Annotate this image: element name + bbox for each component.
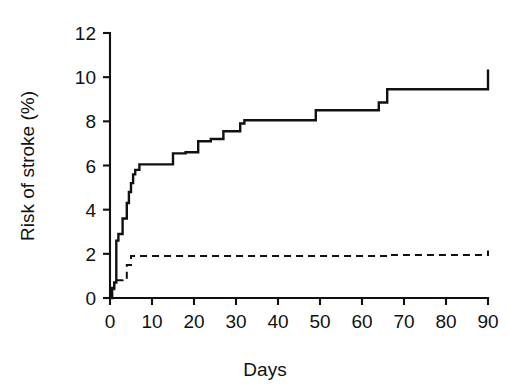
- chart-plot-area: 0102030405060708090 024681012 Days Risk …: [0, 0, 529, 388]
- tick-marks-group: [103, 33, 488, 305]
- x-tick-label-4: 40: [267, 311, 288, 332]
- y-tick-label-2: 4: [85, 200, 96, 221]
- y-tick-label-3: 6: [85, 156, 96, 177]
- x-tick-label-2: 20: [183, 311, 204, 332]
- series-solid-curve: [110, 69, 488, 298]
- x-tick-label-9: 90: [477, 311, 498, 332]
- x-tick-label-8: 80: [435, 311, 456, 332]
- y-axis-title: Risk of stroke (%): [17, 91, 38, 241]
- x-tick-label-0: 0: [105, 311, 116, 332]
- x-tick-label-5: 50: [309, 311, 330, 332]
- x-tick-label-3: 30: [225, 311, 246, 332]
- y-tick-labels-group: 024681012: [75, 23, 97, 309]
- x-tick-labels-group: 0102030405060708090: [105, 311, 499, 332]
- y-tick-label-6: 12: [75, 23, 96, 44]
- y-tick-label-1: 2: [85, 244, 96, 265]
- y-tick-label-4: 8: [85, 111, 96, 132]
- series-dashed-curve: [110, 251, 488, 298]
- data-series-group: [110, 69, 488, 298]
- y-tick-label-5: 10: [75, 67, 96, 88]
- y-tick-label-0: 0: [85, 288, 96, 309]
- x-axis-title: Days: [243, 359, 286, 380]
- x-tick-label-7: 70: [393, 311, 414, 332]
- stroke-risk-chart-figure: 0102030405060708090 024681012 Days Risk …: [0, 0, 529, 388]
- x-tick-label-1: 10: [141, 311, 162, 332]
- x-tick-label-6: 60: [351, 311, 372, 332]
